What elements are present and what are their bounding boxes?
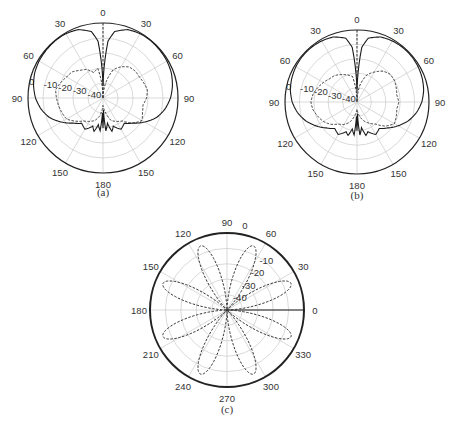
grid-spoke [357,102,393,164]
angle-tick-label: 270 [219,393,235,404]
angle-tick-label: 30 [55,18,66,29]
angle-tick-label: 30 [393,25,404,36]
angle-tick-label: 210 [143,349,159,360]
radial-zero-label: 0 [242,220,247,231]
angle-tick-label: 30 [310,25,321,36]
polar-plot-c: 0306090120150180210240270300330-10-20-30… [131,217,318,404]
angle-tick-label: 150 [52,167,68,178]
angle-tick-label: 120 [170,136,186,147]
angle-tick-label: 90 [269,97,280,108]
caption-c: (c) [221,403,234,416]
caption-b: (b) [351,189,364,202]
angle-tick-label: 120 [21,136,37,147]
angle-tick-label: 150 [143,261,159,272]
angle-tick-label: 240 [175,381,191,392]
radial-tick-label: -10 [300,83,314,94]
angle-tick-label: 60 [23,50,34,61]
grid-spoke [66,98,104,163]
angle-tick-label: 0 [100,7,105,18]
radial-tick-label: -10 [44,79,58,90]
angle-tick-label: 90 [12,93,23,104]
polar-plot-b: 03060901201501801501209060300-10-20-30-4… [269,14,446,191]
angle-tick-label: 150 [391,168,407,179]
grid-spoke [357,66,419,102]
angle-tick-label: 120 [175,228,191,239]
grid-spoke [103,98,141,163]
angle-tick-label: 30 [298,261,309,272]
figure-canvas: 03060901201501801501209060300-10-20-30-4… [0,0,452,428]
angle-tick-label: 60 [172,50,183,61]
angle-tick-label: 60 [280,55,291,66]
grid-spoke [321,102,357,164]
grid-spoke [103,33,141,98]
angle-tick-label: 180 [131,305,147,316]
polar-plot-a: 03060901201501801501209060300-10-20-30-4… [12,7,195,190]
angle-tick-label: 90 [435,97,446,108]
radial-tick-label: -30 [242,280,256,291]
angle-tick-label: 30 [141,18,152,29]
grid-spoke [357,40,393,102]
angle-tick-label: 60 [266,228,277,239]
angle-tick-label: 330 [295,349,311,360]
angle-tick-label: 150 [308,168,324,179]
radial-tick-label: -10 [259,255,273,266]
radial-tick-label: -20 [314,86,328,97]
radial-tick-label: -30 [73,85,87,96]
angle-tick-label: 120 [277,138,293,149]
grid-spoke [227,310,294,349]
angle-tick-label: 0 [312,305,317,316]
angle-tick-label: 60 [424,55,435,66]
radial-tick-label: -30 [328,90,342,101]
radial-tick-label: -40 [342,93,356,104]
radial-tick-label: -20 [58,82,72,93]
angle-tick-label: 300 [263,381,279,392]
caption-a: (a) [97,186,110,199]
angle-tick-label: 90 [184,93,195,104]
radial-tick-label: -20 [251,267,265,278]
radial-tick-label: -40 [88,89,102,100]
grid-spoke [103,61,168,99]
angle-tick-label: 0 [354,14,359,25]
angle-tick-label: 90 [222,217,233,228]
angle-tick-label: 150 [138,167,154,178]
angle-tick-label: 120 [421,138,437,149]
